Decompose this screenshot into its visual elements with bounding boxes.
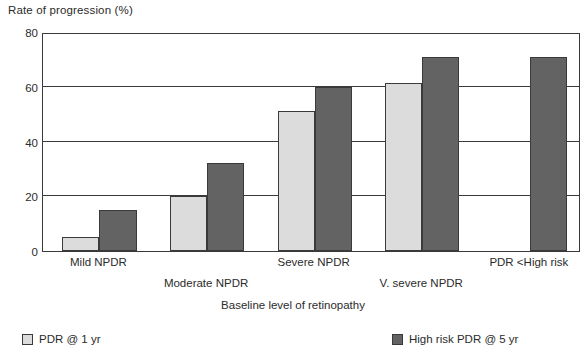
x-tick-label-4: PDR <High risk	[489, 256, 568, 268]
bar-2-1	[315, 87, 352, 251]
legend-swatch-icon-0	[22, 334, 33, 345]
x-tick-label-0: Mild NPDR	[70, 256, 127, 268]
legend-label-0: PDR @ 1 yr	[39, 333, 101, 345]
x-tick-label-2: Severe NPDR	[278, 256, 350, 268]
y-tick-label-0: 0	[0, 246, 38, 258]
bar-0-0	[62, 237, 99, 251]
plot-area	[42, 33, 580, 252]
chart-legend: PDR @ 1 yrHigh risk PDR @ 5 yr	[0, 333, 586, 353]
x-tick-label-1: Moderate NPDR	[164, 277, 248, 289]
legend-item-1[interactable]: High risk PDR @ 5 yr	[392, 333, 518, 345]
y-tick-label-60: 60	[0, 82, 38, 94]
legend-label-1: High risk PDR @ 5 yr	[409, 333, 518, 345]
bar-0-1	[99, 210, 136, 251]
y-tick-label-20: 20	[0, 191, 38, 203]
x-tick-label-3: V. severe NPDR	[380, 277, 463, 289]
legend-swatch-icon-1	[392, 334, 403, 345]
bars-layer	[43, 34, 579, 251]
bar-1-1	[207, 163, 244, 251]
x-axis-label: Baseline level of retinopathy	[221, 299, 365, 311]
bar-2-0	[278, 111, 315, 251]
legend-item-0[interactable]: PDR @ 1 yr	[22, 333, 101, 345]
y-axis-label: Rate of progression (%)	[8, 4, 133, 16]
y-tick-label-40: 40	[0, 137, 38, 149]
bar-1-0	[170, 196, 207, 251]
bar-3-1	[422, 57, 459, 251]
bar-3-0	[385, 83, 422, 251]
y-tick-label-80: 80	[0, 27, 38, 39]
bar-4-1	[530, 57, 567, 251]
